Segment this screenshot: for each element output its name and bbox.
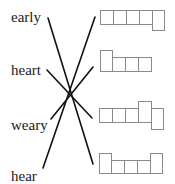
word-shape-boxes (100, 11, 165, 174)
shape-box-1 (101, 11, 165, 31)
word-shape-matching-diagram: early heart weary hear (0, 0, 175, 184)
matching-lines (43, 17, 95, 168)
shape-box-2 (101, 51, 152, 72)
shape-box-4 (100, 154, 163, 174)
line-early-to-box-4 (48, 18, 93, 164)
shape-box-3 (100, 102, 164, 130)
diagram-canvas (0, 0, 175, 184)
